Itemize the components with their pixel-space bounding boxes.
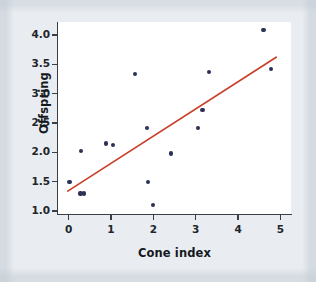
data-point: [261, 28, 265, 32]
data-point: [196, 126, 200, 130]
data-point: [82, 191, 86, 195]
data-point: [133, 72, 137, 76]
regression-line: [0, 0, 316, 282]
data-point: [200, 108, 204, 112]
regression-line-segment: [68, 57, 276, 191]
data-point: [104, 141, 108, 145]
data-point: [145, 126, 149, 130]
data-point: [169, 151, 173, 155]
scatter-plot-figure: Offspring Cone index 1.01.52.02.53.03.54…: [0, 0, 316, 282]
data-point: [67, 180, 71, 184]
